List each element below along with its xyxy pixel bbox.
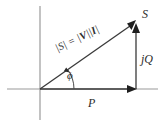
power-triangle-figure: S jQ P ϕ |S| = |V||I| [0,0,165,126]
reactive-power-label: jQ [141,53,153,65]
phase-angle-label: ϕ [67,70,73,81]
apparent-power-label: S [142,8,148,20]
real-power-label: P [88,97,95,109]
